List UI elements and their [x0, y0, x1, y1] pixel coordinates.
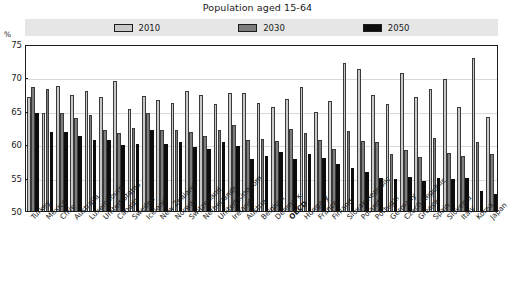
- chart-container: Population aged 15-64 2010 2030 2050 % 5…: [0, 0, 515, 283]
- y-tick-mark: [25, 179, 28, 180]
- y-tick-mark: [25, 78, 28, 79]
- y-tick-mark: [25, 145, 28, 146]
- x-axis: TurkeyMexicoChileAustraliaLuxembourgUnit…: [0, 0, 515, 283]
- y-tick-mark: [25, 112, 28, 113]
